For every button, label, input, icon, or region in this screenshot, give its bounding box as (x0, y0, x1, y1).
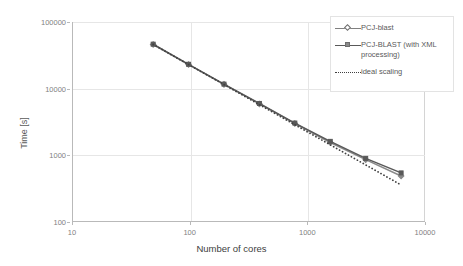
y-tick-mark (67, 155, 70, 156)
x-tick-label: 10000 (415, 228, 436, 237)
y-tick-mark (67, 222, 70, 223)
x-tick-mark (307, 222, 308, 225)
diamond-marker-icon (344, 24, 351, 31)
x-tick-label: 100 (183, 228, 196, 237)
data-point-marker (328, 139, 332, 143)
chart-container: Time [s] 100100010000100000 101001000100… (0, 0, 463, 266)
x-tick-label: 10 (68, 228, 76, 237)
legend-item-pcj-blast: PCJ-blast (335, 23, 449, 33)
legend-label-pcj-blast-xml: PCJ-BLAST (with XML processing) (361, 40, 449, 60)
legend-item-pcj-blast-xml: PCJ-BLAST (with XML processing) (335, 40, 449, 60)
data-point-marker (364, 156, 368, 160)
legend-key-ideal-scaling (335, 68, 361, 77)
x-tick-mark (72, 222, 73, 225)
dotted-line-icon (335, 72, 361, 73)
y-tick-label: 100 (53, 218, 66, 227)
legend-label-pcj-blast: PCJ-blast (361, 23, 394, 33)
y-tick-label: 100000 (41, 18, 66, 27)
x-tick-label: 1000 (299, 228, 316, 237)
y-tick-mark (67, 89, 70, 90)
legend-label-ideal-scaling: ideal scaling (361, 67, 402, 77)
chart-legend: PCJ-blast PCJ-BLAST (with XML processing… (330, 16, 454, 92)
y-tick-mark (67, 22, 70, 23)
square-marker-icon (345, 42, 350, 47)
legend-item-ideal-scaling: ideal scaling (335, 67, 449, 77)
x-axis-ticks: 10100100010000 (72, 222, 425, 242)
legend-key-pcj-blast (335, 24, 361, 33)
x-tick-mark (190, 222, 191, 225)
y-tick-label: 1000 (49, 151, 66, 160)
y-tick-label: 10000 (45, 84, 66, 93)
x-axis-title: Number of cores (0, 243, 463, 254)
x-tick-mark (425, 222, 426, 225)
legend-key-pcj-blast-xml (335, 41, 361, 50)
data-point-marker (399, 171, 403, 175)
y-axis-ticks: 100100010000100000 (0, 22, 70, 222)
